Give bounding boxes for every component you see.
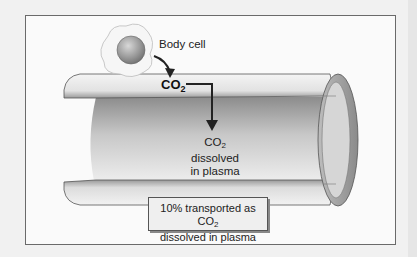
dissolved-label: CO2 dissolved in plasma [180,136,250,178]
co2-label: CO2 [161,77,186,94]
vessel-wall-top [64,74,335,98]
callout-box: 10% transported as CO2 dissolved in plas… [148,197,268,231]
body-cell-label: Body cell [159,38,206,51]
vessel-end-inner [322,82,350,198]
cell-nucleus [117,36,145,64]
